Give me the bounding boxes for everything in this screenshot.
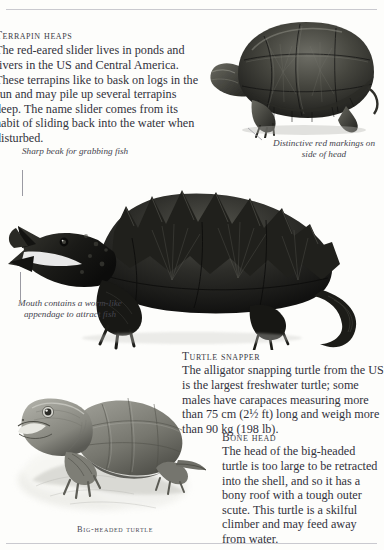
section-terrapin-heaps: Terrapin heaps The red-eared slider live…: [0, 28, 205, 146]
section-heading-bone-head: Bone head: [222, 430, 378, 444]
red-eared-slider-photo: [208, 14, 380, 138]
caption-sharp-beak: Sharp beak for grabbing fish: [22, 146, 130, 157]
big-headed-turtle-illustration: [10, 360, 206, 528]
section-bone-head: Bone head The head of the big-headed tur…: [222, 430, 378, 547]
section-body-terrapin-heaps: The red-eared slider lives in ponds and …: [0, 43, 205, 145]
top-rule: [6, 9, 377, 10]
figure-label-big-headed-turtle: Big-headed turtle: [40, 525, 190, 534]
section-body-bone-head: The head of the big-headed turtle is too…: [222, 444, 378, 546]
caption-red-markings: Distinctive red markings on side of head: [272, 138, 376, 161]
section-body-turtle-snapper: The alligator snapping turtle from the U…: [182, 363, 384, 436]
leader-line-mouth: [20, 272, 21, 302]
caption-mouth-appendage: Mouth contains a worm-like appendage to …: [18, 298, 122, 321]
alligator-snapping-turtle-photo: [2, 168, 380, 350]
leader-line-sharp-beak: [22, 170, 23, 196]
section-turtle-snapper: Turtle snapper The alligator snapping tu…: [182, 349, 384, 436]
section-heading-turtle-snapper: Turtle snapper: [182, 349, 384, 363]
section-heading-terrapin-heaps: Terrapin heaps: [0, 28, 205, 42]
